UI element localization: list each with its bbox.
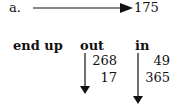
out-value-1: 268	[88, 54, 117, 68]
out-value-2: 17	[88, 71, 117, 85]
header-in: in	[135, 39, 149, 53]
problem-label: a.	[9, 1, 21, 15]
in-value-2: 365	[141, 71, 170, 85]
header-end-up: end up	[13, 39, 63, 53]
in-value-1: 49	[141, 54, 170, 68]
header-out: out	[80, 39, 104, 53]
top-arrow-icon	[33, 3, 133, 13]
result-value: 175	[134, 1, 159, 15]
arrows-layer	[0, 0, 178, 106]
